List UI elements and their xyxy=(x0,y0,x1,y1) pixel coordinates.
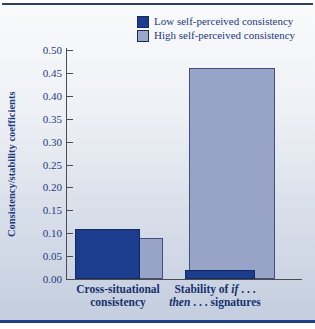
y-axis-tick xyxy=(67,119,73,120)
y-axis-tick xyxy=(67,50,73,51)
y-axis-tick xyxy=(67,210,73,211)
y-axis-tick xyxy=(67,165,73,166)
y-axis-tick xyxy=(67,96,73,97)
bar-low-group-0 xyxy=(75,229,140,279)
y-axis-tick xyxy=(67,187,73,188)
y-axis-tick xyxy=(67,279,73,280)
y-axis-tick-label: 0.15 xyxy=(30,204,62,216)
y-axis-tick-label: 0.05 xyxy=(30,250,62,262)
y-axis-title: Consistency/stability coefficients xyxy=(6,82,22,247)
legend-swatch-low xyxy=(137,16,149,28)
y-axis-tick-label: 0.20 xyxy=(30,181,62,193)
y-axis-tick-label: 0.10 xyxy=(30,227,62,239)
y-axis-tick-label: 0.40 xyxy=(30,90,62,102)
legend-label-low: Low self-perceived consistency xyxy=(154,15,293,28)
bar-high-group-1 xyxy=(189,68,275,279)
legend-label-high: High self-perceived consistency xyxy=(154,29,295,42)
y-axis-tick xyxy=(67,73,73,74)
y-axis-tick-label: 0.25 xyxy=(30,159,62,171)
y-axis-tick-label: 0.35 xyxy=(30,113,62,125)
bar-low-group-1 xyxy=(185,270,255,279)
y-axis-tick-label: 0.50 xyxy=(30,44,62,56)
x-axis-line xyxy=(66,279,302,280)
bottom-divider-rule xyxy=(0,320,315,323)
top-divider-rule xyxy=(2,3,313,5)
figure: Low self-perceived consistency High self… xyxy=(0,0,315,329)
y-axis-tick-label: 0.30 xyxy=(30,136,62,148)
y-axis-tick-label: 0.45 xyxy=(30,67,62,79)
y-axis-tick xyxy=(67,233,73,234)
y-axis-tick xyxy=(67,142,73,143)
legend-swatch-high xyxy=(137,30,149,42)
x-axis-label-group-1: Stability of if . . .then . . . signatur… xyxy=(155,283,275,309)
y-axis-tick xyxy=(67,256,73,257)
